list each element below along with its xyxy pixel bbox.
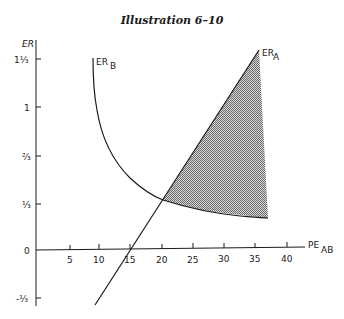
y-axis-label: ER: [22, 39, 34, 49]
y-tick-label: ⅓: [22, 200, 31, 210]
x-tick-label: 40: [281, 254, 293, 264]
er-b-label: ER B: [96, 57, 116, 71]
er-a-label: ER A: [262, 48, 280, 62]
x-axis-label: PE AB: [308, 240, 333, 255]
y-tick-label: 1⅓: [14, 55, 29, 65]
x-axis: [36, 247, 305, 250]
svg-text:B: B: [110, 61, 116, 71]
svg-text:PE: PE: [308, 240, 319, 250]
y-ticks: [36, 59, 41, 298]
x-tick-label: 30: [218, 254, 230, 264]
x-tick-label: 5: [67, 255, 73, 265]
y-tick-label: 0: [24, 246, 30, 256]
svg-text:ER: ER: [96, 57, 108, 67]
y-tick-label: ⅔: [22, 152, 31, 162]
y-tick-label: -⅓: [16, 294, 28, 304]
x-tick-label: 10: [93, 255, 105, 265]
x-tick-label: 25: [187, 255, 198, 265]
x-tick-label: 20: [156, 255, 168, 265]
svg-text:A: A: [273, 52, 280, 62]
svg-text:AB: AB: [321, 245, 333, 255]
y-tick-label: 1: [24, 103, 30, 113]
shaded-region: [163, 50, 268, 218]
chart-canvas: 1⅓ 1 ⅔ ⅓ 0 -⅓ 5 10 15 20 25 30 35 40 ER …: [0, 0, 344, 319]
x-tick-label: 35: [249, 254, 260, 264]
